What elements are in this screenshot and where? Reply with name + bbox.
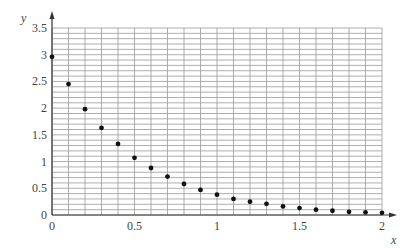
y-tick-label: 2.5: [32, 74, 47, 88]
data-point: [83, 107, 88, 112]
y-tick-label: 1.5: [32, 128, 47, 142]
x-axis-arrow-icon: [389, 213, 397, 218]
y-tick-label: 0: [41, 208, 47, 222]
x-tick-labels: 00.511.52: [49, 219, 385, 233]
data-point: [347, 209, 352, 214]
y-tick-label: 0.5: [32, 181, 47, 195]
data-point: [297, 206, 302, 211]
x-axis-label: x: [390, 233, 397, 247]
data-point: [363, 210, 368, 215]
data-point: [330, 208, 335, 213]
data-point: [215, 192, 220, 197]
data-point: [198, 187, 203, 192]
data-point: [281, 204, 286, 209]
data-point: [50, 54, 55, 59]
data-point: [248, 199, 253, 204]
data-point: [314, 207, 319, 212]
x-tick-label: 0: [49, 219, 55, 233]
data-point: [231, 197, 236, 202]
data-point: [149, 166, 154, 171]
data-point: [165, 174, 170, 179]
y-axis-arrow-icon: [50, 11, 55, 19]
data-point: [99, 126, 104, 131]
data-point: [132, 155, 137, 160]
y-tick-labels: 00.511.522.533.5: [32, 21, 47, 222]
y-tick-label: 3.5: [32, 21, 47, 35]
grid: [52, 28, 382, 215]
x-tick-label: 0.5: [127, 219, 142, 233]
data-point: [66, 82, 71, 87]
x-tick-label: 1: [214, 219, 220, 233]
data-point: [380, 210, 385, 215]
x-tick-label: 2: [379, 219, 385, 233]
y-tick-label: 1: [41, 155, 47, 169]
data-point: [264, 201, 269, 206]
y-tick-label: 2: [41, 101, 47, 115]
y-axis-label: y: [20, 11, 27, 25]
y-tick-label: 3: [41, 48, 47, 62]
data-point: [182, 182, 187, 187]
data-point: [116, 142, 121, 147]
x-tick-label: 1.5: [292, 219, 307, 233]
chart-canvas: 00.511.52 00.511.522.533.5 x y: [0, 0, 410, 252]
scatter-chart: 00.511.52 00.511.522.533.5 x y: [0, 0, 410, 252]
